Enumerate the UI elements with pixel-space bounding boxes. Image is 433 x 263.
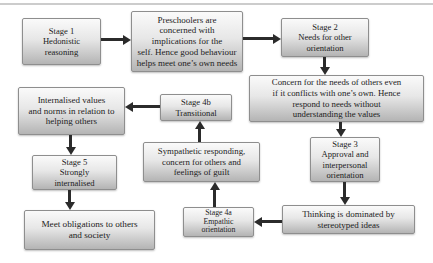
node-stage-3-approval: Stage 3Approval andinterpersonalorientat… <box>310 137 380 182</box>
node-meet-obligations: Meet obligations to othersand society <box>24 210 155 250</box>
top-rule-divider <box>0 3 433 5</box>
arrowhead-left-icon <box>125 102 133 112</box>
arrow-internalised-to-stage5 <box>69 135 72 147</box>
arrow-preschoolers-to-stage2 <box>243 37 273 40</box>
node-stage-4a-empathic: Stage 4aEmpathicorientation <box>183 207 254 237</box>
node-internalised-values: Internalised valuesand norms in relation… <box>18 87 125 135</box>
flowchart-canvas: Stage 1Hedonisticreasoning Preschoolers … <box>0 0 433 263</box>
arrow-thinking-to-stage4a <box>262 220 282 223</box>
arrow-stage4a-to-sympathetic <box>213 190 216 207</box>
node-sympathetic-responding: Sympathetic responding,concern for other… <box>143 142 260 182</box>
node-stage-2-needs-other: Stage 2Needs for otherorientation <box>281 18 369 57</box>
node-preschoolers-description: Preschoolers areconcerned withimplicatio… <box>131 11 243 72</box>
arrow-stage4b-to-internalised <box>133 105 160 108</box>
arrowhead-down-icon <box>336 129 346 137</box>
node-concern-description: Concern for the needs of others evenif i… <box>249 75 424 122</box>
arrowhead-right-icon <box>273 34 281 44</box>
node-stage-4b-transitional: Stage 4bTransitional <box>160 94 232 121</box>
arrowhead-down-icon <box>320 67 330 75</box>
arrowhead-up-icon <box>195 121 205 129</box>
arrowhead-left-icon <box>254 217 262 227</box>
arrow-concern-to-stage3 <box>339 122 342 129</box>
node-thinking-stereotyped: Thinking is dominated bystereotyped idea… <box>282 205 415 234</box>
arrowhead-down-icon <box>340 197 350 205</box>
arrowhead-down-icon <box>65 202 75 210</box>
arrowhead-down-icon <box>66 147 76 155</box>
arrow-stage2-to-concern <box>323 57 326 67</box>
arrow-stage1-to-preschoolers <box>101 38 123 41</box>
arrowhead-right-icon <box>123 35 131 45</box>
arrow-stage5-to-obligations <box>68 190 71 202</box>
node-stage-1-hedonistic: Stage 1Hedonisticreasoning <box>22 18 101 65</box>
arrow-sympathetic-to-stage4b <box>198 129 201 142</box>
arrowhead-up-icon <box>210 182 220 190</box>
node-stage-5-strongly-internalised: Stage 5Stronglyinternalised <box>32 155 117 190</box>
arrow-stage3-to-thinking <box>343 182 346 197</box>
